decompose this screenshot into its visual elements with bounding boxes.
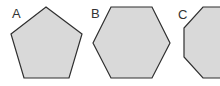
shape-label-c: C [178,7,187,22]
shape-label-b: B [91,6,100,21]
shape-c-group: C [178,7,220,78]
octagon-shape [184,7,220,78]
polygon-figure: A B C [0,0,220,86]
pentagon-shape [11,7,82,78]
polygon-diagram: A B C [0,0,220,86]
shape-label-a: A [12,6,21,21]
hexagon-shape [93,7,170,78]
shape-b-group: B [91,6,170,78]
shape-a-group: A [11,6,82,78]
